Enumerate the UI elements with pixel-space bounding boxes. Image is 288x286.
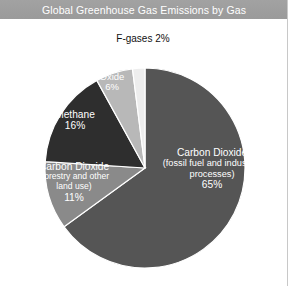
- chart-figure: Global Greenhouse Gas Emissions by Gas F…: [0, 0, 288, 286]
- label-co2-fossil-line3: processes): [150, 169, 274, 179]
- label-fgases: F-gases 2%: [78, 33, 208, 44]
- label-co2-forestry-value: 11%: [14, 192, 134, 203]
- label-co2-forestry-line3: land use): [14, 182, 134, 192]
- label-co2-fossil: Carbon Dioxide (fossil fuel and industri…: [150, 147, 274, 190]
- label-co2-fossil-line1: Carbon Dioxide: [150, 147, 274, 158]
- page-title: Global Greenhouse Gas Emissions by Gas: [42, 4, 246, 16]
- label-methane-value: 16%: [34, 120, 116, 131]
- label-fgases-text: F-gases 2%: [116, 33, 169, 44]
- label-co2-forestry: Carbon Dioxide (forestry and other land …: [14, 161, 134, 203]
- chart-title-bar: Global Greenhouse Gas Emissions by Gas: [0, 0, 288, 19]
- label-co2-fossil-value: 65%: [150, 179, 274, 190]
- label-nitrous-oxide-value: 6%: [84, 82, 140, 93]
- pie-chart-area: F-gases 2% Nitrous Oxide 6% Methane 16% …: [0, 19, 288, 286]
- label-nitrous-oxide: Nitrous Oxide 6%: [84, 61, 140, 93]
- label-methane: Methane 16%: [34, 109, 116, 132]
- label-co2-fossil-line2: (fossil fuel and industrial: [150, 158, 274, 168]
- label-methane-name: Methane: [34, 109, 116, 120]
